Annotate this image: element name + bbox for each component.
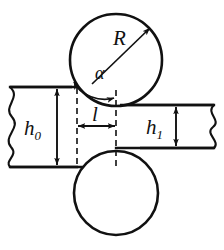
exit-slab-break-line — [210, 105, 215, 148]
exit-thickness-base: h — [146, 115, 157, 139]
entry-thickness-dimension: h0 — [24, 89, 57, 165]
radius-label: R — [112, 26, 126, 50]
rolling-mill-diagram: R α l h0 h1 — [0, 0, 224, 250]
diagram-canvas: R α l h0 h1 — [0, 0, 224, 250]
exit-thickness-label: h1 — [146, 115, 163, 142]
exit-thickness-dimension: h1 — [146, 107, 176, 146]
entry-thickness-label: h0 — [24, 116, 42, 143]
entry-thickness-subscript: 0 — [35, 128, 42, 143]
exit-thickness-subscript: 1 — [157, 127, 164, 142]
bite-angle-label: α — [95, 63, 105, 83]
exit-slab — [116, 105, 216, 148]
contact-length-label: l — [92, 102, 98, 126]
entry-thickness-base: h — [24, 116, 35, 140]
entry-slab-break-line — [9, 87, 15, 167]
